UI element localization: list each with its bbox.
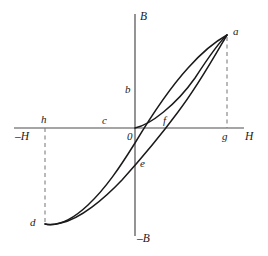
axis-label-b-negative: –B [137,233,150,245]
axis-label-b-positive: B [140,11,147,23]
axis-label-h-positive: H [245,131,253,143]
axis-label-h-negative: –H [15,131,29,143]
initial-magnetization-curve [135,35,227,128]
axis-label-origin: 0 [127,131,133,142]
point-label-d: d [30,217,36,228]
ascending-branch-d-to-a [45,35,227,224]
point-label-b: b [125,84,131,95]
point-label-h: h [41,114,47,125]
point-label-f: f [163,115,166,126]
descending-branch-a-to-d [45,35,227,225]
diagram-canvas [0,0,268,256]
point-label-c: c [102,115,107,126]
hysteresis-loop-figure: B –B H –H 0 a b c d e f g h [0,0,268,256]
point-label-e: e [140,158,145,169]
point-label-g: g [222,131,228,142]
point-label-a: a [233,26,239,37]
